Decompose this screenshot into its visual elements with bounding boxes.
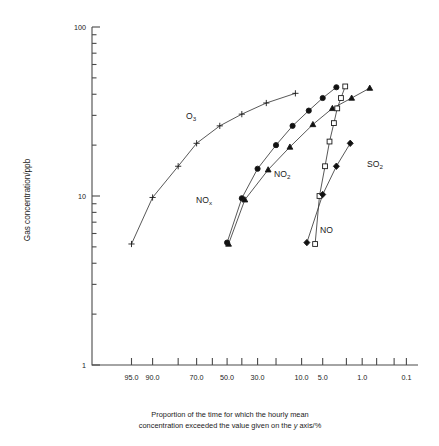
x-tick-label: 5.0 bbox=[318, 373, 328, 382]
series-NO bbox=[313, 84, 348, 246]
series-O3 bbox=[128, 90, 298, 247]
y-tick-label: 1 bbox=[82, 361, 86, 370]
y-tick-label: 100 bbox=[74, 23, 86, 32]
chart-annotations: O3NOxNO2NOSO2 bbox=[186, 111, 383, 235]
x-tick-label: 0.1 bbox=[401, 373, 411, 382]
x-tick-label: 70.0 bbox=[190, 373, 204, 382]
caption-line-2: concentration exceeded the value given o… bbox=[139, 421, 322, 430]
x-tick-label: 90.0 bbox=[146, 373, 160, 382]
series-label-SO2: SO2 bbox=[367, 159, 383, 170]
x-tick-label: 1.0 bbox=[357, 373, 367, 382]
series-label-O3: O3 bbox=[186, 111, 197, 122]
series-label-NO2: NO2 bbox=[274, 169, 291, 180]
series-NOx bbox=[224, 85, 338, 246]
x-tick-label: 10.0 bbox=[295, 373, 309, 382]
caption-line-1: Proportion of the time for which the hou… bbox=[151, 410, 308, 419]
figure-container: 10010195.090.070.050.030.010.05.01.00.1 … bbox=[0, 0, 439, 446]
series-label-NO: NO bbox=[320, 225, 333, 235]
series-label-NOx: NOx bbox=[196, 195, 213, 206]
x-tick-label: 30.0 bbox=[251, 373, 265, 382]
y-tick-label: 10 bbox=[78, 192, 86, 201]
series-NO2 bbox=[226, 85, 373, 246]
gas-concentration-chart: 10010195.090.070.050.030.010.05.01.00.1 … bbox=[0, 0, 439, 446]
caption-part-c: axis/% bbox=[297, 421, 321, 430]
chart-series-layer bbox=[128, 84, 372, 247]
x-tick-label: 95.0 bbox=[124, 373, 138, 382]
caption-part-a: concentration exceeded the value given o… bbox=[139, 421, 294, 430]
x-tick-label: 50.0 bbox=[220, 373, 234, 382]
y-axis-label: Gas concentration/ppb bbox=[23, 158, 32, 241]
